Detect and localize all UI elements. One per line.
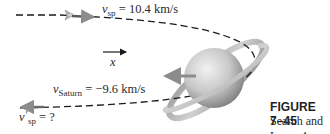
figure-canvas: vsp = 10.4 km/s x vSaturn = −9.6 km/s v′… [0, 0, 330, 134]
label-v-sp-prime: v′sp = ? [19, 111, 55, 126]
spacecraft-velocity-arrow [72, 16, 93, 17]
figure-caption-text: Search and Learn 4. [270, 114, 330, 134]
label-v-sp: vsp = 10.4 km/s [102, 3, 178, 18]
label-x-axis: x [110, 56, 116, 69]
label-v-saturn: vSaturn = −9.6 km/s [53, 83, 145, 98]
